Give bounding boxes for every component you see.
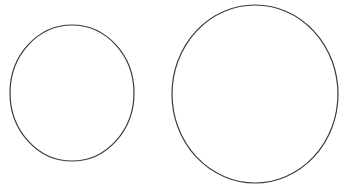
figure-canvas: Two Circles Two empty circle outlines of… <box>0 0 352 195</box>
figure-svg: Two Circles Two empty circle outlines of… <box>0 0 352 195</box>
canvas-background <box>0 0 352 195</box>
